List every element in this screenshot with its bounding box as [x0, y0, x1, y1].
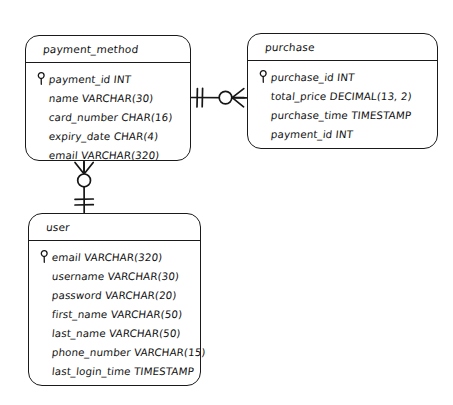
entity-title: payment_method [42, 43, 139, 55]
attribute-label: phone_number VARCHAR(15) [51, 346, 206, 358]
er-diagram-canvas: payment_method payment_id INT name VARCH… [0, 0, 453, 405]
key-icon [37, 250, 52, 263]
key-icon [256, 70, 271, 83]
entity-title: purchase [264, 41, 315, 53]
relationship-payment_method-purchase[interactable] [192, 88, 247, 107]
attribute-row[interactable]: purchase_time TIMESTAMP [256, 105, 431, 124]
attribute-row[interactable]: last_login_time TIMESTAMP [37, 361, 194, 380]
attribute-label: password VARCHAR(20) [51, 289, 177, 301]
attribute-label: purchase_time TIMESTAMP [270, 109, 411, 121]
attribute-row[interactable]: password VARCHAR(20) [37, 285, 194, 304]
attribute-label: last_name VARCHAR(50) [51, 327, 181, 339]
crows-foot-circle-icon [219, 89, 244, 107]
entity-attributes: email VARCHAR(320) username VARCHAR(30) … [29, 241, 200, 387]
attribute-row[interactable]: payment_id INT [256, 124, 431, 143]
attribute-label: purchase_id INT [270, 71, 355, 83]
attribute-row[interactable]: phone_number VARCHAR(15) [37, 342, 194, 361]
attribute-row[interactable]: email VARCHAR(320) [37, 247, 194, 266]
attribute-row[interactable]: last_name VARCHAR(50) [37, 323, 194, 342]
entity-header: purchase [248, 34, 437, 61]
attribute-label: name VARCHAR(30) [48, 92, 154, 104]
attribute-label: username VARCHAR(30) [51, 270, 179, 282]
entity-purchase[interactable]: purchase purchase_id INT total_price DEC… [247, 33, 438, 149]
attribute-label: expiry_date CHAR(4) [48, 130, 158, 142]
key-icon [34, 72, 49, 85]
entity-user[interactable]: user email VARCHAR(320) username VARCHAR… [28, 213, 201, 386]
entity-title: user [45, 221, 70, 233]
attribute-row[interactable]: username VARCHAR(30) [37, 266, 194, 285]
attribute-label: email VARCHAR(320) [51, 251, 163, 263]
attribute-row[interactable]: first_name VARCHAR(50) [37, 304, 194, 323]
attribute-row[interactable]: expiry_date CHAR(4) [34, 126, 184, 145]
entity-attributes: purchase_id INT total_price DECIMAL(13, … [248, 61, 437, 150]
attribute-row[interactable]: total_price DECIMAL(13, 2) [256, 86, 431, 105]
entity-header: payment_method [26, 36, 190, 63]
attribute-label: first_name VARCHAR(50) [51, 308, 183, 320]
attribute-label: last_login_time TIMESTAMP [51, 365, 194, 377]
entity-attributes: payment_id INT name VARCHAR(30) card_num… [26, 63, 190, 171]
attribute-label: email VARCHAR(320) [48, 149, 160, 161]
entity-payment_method[interactable]: payment_method payment_id INT name VARCH… [25, 35, 191, 161]
attribute-row[interactable]: payment_id INT [34, 69, 184, 88]
attribute-label: payment_id INT [270, 128, 353, 140]
attribute-row[interactable]: name VARCHAR(30) [34, 88, 184, 107]
entity-header: user [29, 214, 200, 241]
attribute-row[interactable]: email VARCHAR(320) [34, 145, 184, 164]
attribute-row[interactable]: card_number CHAR(16) [34, 107, 184, 126]
attribute-row[interactable]: purchase_id INT [256, 67, 431, 86]
attribute-label: total_price DECIMAL(13, 2) [270, 90, 412, 102]
attribute-label: payment_id INT [48, 73, 131, 85]
attribute-label: card_number CHAR(16) [48, 111, 173, 123]
